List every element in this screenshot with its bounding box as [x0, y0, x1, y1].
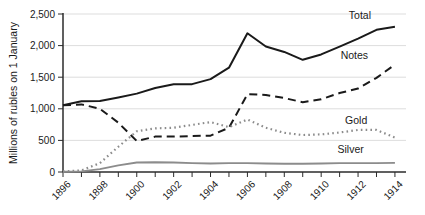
- x-tick-label: 1900: [123, 178, 147, 202]
- series-line-notes: [63, 65, 395, 141]
- y-tick-label: 2,500: [30, 9, 55, 20]
- y-tick-label: 2,000: [30, 40, 55, 51]
- x-tick-label: 1898: [86, 178, 110, 202]
- x-tick-label: 1910: [308, 178, 332, 202]
- series-line-silver: [63, 162, 395, 171]
- y-tick-label: 500: [38, 135, 55, 146]
- x-axis-tick-labels: 1896189819001902190419061908191019121914: [49, 178, 405, 202]
- y-tick-label: 0: [49, 167, 55, 178]
- series-line-total: [63, 27, 395, 106]
- series-label-gold: Gold: [345, 114, 367, 126]
- x-tick-label: 1902: [160, 178, 184, 202]
- x-tick-label: 1906: [234, 178, 258, 202]
- x-tick-label: 1912: [344, 178, 368, 202]
- x-axis-group: [63, 172, 406, 177]
- x-tick-label: 1908: [271, 178, 295, 202]
- series-label-total: Total: [349, 9, 371, 21]
- x-tick-label: 1904: [197, 178, 221, 202]
- y-axis-title-label: Millions of rubles on 1 January: [7, 21, 19, 164]
- y-tick-label: 1,000: [30, 103, 55, 114]
- x-tick-label: 1896: [49, 178, 73, 202]
- series-label-notes: Notes: [341, 49, 368, 61]
- y-axis-title: Millions of rubles on 1 January: [7, 21, 19, 164]
- x-tick-label: 1914: [381, 178, 405, 202]
- chart-container: 05001,0001,5002,0002,500 189618981900190…: [0, 0, 425, 215]
- y-tick-label: 1,500: [30, 72, 55, 83]
- y-axis-group: [58, 13, 63, 172]
- y-axis-tick-labels: 05001,0001,5002,0002,500: [30, 9, 55, 178]
- line-chart: 05001,0001,5002,0002,500 189618981900190…: [0, 0, 425, 215]
- series-label-silver: Silver: [338, 143, 365, 155]
